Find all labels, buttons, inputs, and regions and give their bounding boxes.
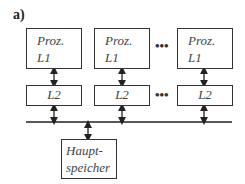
processor-label: Proz. bbox=[105, 33, 132, 48]
processor-label: Proz. bbox=[37, 33, 64, 48]
l2-cache-box-3: L2 bbox=[177, 85, 233, 106]
ellipsis-processors: ••• bbox=[155, 38, 169, 54]
main-memory-box: Haupt- speicher bbox=[61, 139, 117, 179]
l2-cache-box-1: L2 bbox=[26, 85, 82, 106]
main-memory-label-1: Haupt- bbox=[66, 143, 103, 158]
l1-cache-label: L1 bbox=[188, 50, 202, 65]
l2-cache-box-2: L2 bbox=[94, 85, 150, 106]
processor-label: Proz. bbox=[188, 33, 215, 48]
processor-box-2: Proz.L1 bbox=[94, 28, 150, 69]
processor-box-3: Proz.L1 bbox=[177, 28, 233, 69]
ellipsis-l2: ••• bbox=[155, 87, 169, 103]
processor-box-1: Proz.L1 bbox=[26, 28, 82, 69]
main-memory-label-2: speicher bbox=[66, 160, 110, 175]
l1-cache-label: L1 bbox=[37, 50, 51, 65]
l1-cache-label: L1 bbox=[105, 50, 119, 65]
